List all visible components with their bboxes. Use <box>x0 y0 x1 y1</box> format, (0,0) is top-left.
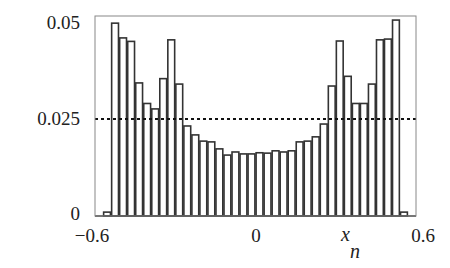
histogram-bar <box>312 137 319 216</box>
histogram-bar <box>184 126 191 216</box>
histogram-bar <box>376 40 383 216</box>
histogram-bar <box>216 149 223 216</box>
histogram-bar <box>280 152 287 216</box>
x-axis-label: x <box>340 223 350 245</box>
y-tick-label-0.05: 0.05 <box>47 12 80 33</box>
histogram-bar <box>248 154 255 216</box>
histogram-bar <box>152 109 159 216</box>
histogram-bar <box>328 86 335 216</box>
histogram-bar <box>136 83 143 216</box>
histogram-bar <box>176 84 183 216</box>
histogram-bar <box>272 151 279 216</box>
histogram-bar <box>224 155 231 216</box>
histogram-bar <box>304 141 311 216</box>
histogram-bar <box>385 39 392 216</box>
histogram-bar <box>200 141 207 216</box>
histogram-bar <box>360 103 367 216</box>
histogram-bar <box>288 151 295 216</box>
x-tick-label-0.6: 0.6 <box>411 225 435 246</box>
histogram-bar <box>368 84 375 216</box>
x-axis-label-subscript: n <box>350 240 360 262</box>
histogram-bar <box>128 41 135 216</box>
y-tick-label-0.025: 0.025 <box>37 108 80 129</box>
histogram-bar <box>240 154 247 216</box>
y-tick-label-0: 0 <box>71 203 81 224</box>
histogram-bar <box>320 124 327 216</box>
histogram-bar <box>232 152 239 216</box>
histogram-bar <box>336 41 343 216</box>
histogram-bar <box>264 153 271 216</box>
x-tick-label-0: 0 <box>251 225 261 246</box>
histogram-bar <box>120 38 127 216</box>
histogram-bar <box>160 79 167 216</box>
histogram-bar <box>208 142 215 216</box>
histogram-bar <box>144 103 151 216</box>
histogram-chart: 0.05 0.025 0 −0.6 0 0.6 x n <box>0 0 450 268</box>
histogram-bar <box>296 142 303 216</box>
histogram-bar <box>344 76 351 216</box>
histogram-bar <box>352 103 359 216</box>
x-tick-label-neg0.6: −0.6 <box>75 225 109 246</box>
histogram-bar <box>256 153 263 216</box>
histogram-bar <box>168 40 175 216</box>
histogram-bar <box>192 135 199 216</box>
